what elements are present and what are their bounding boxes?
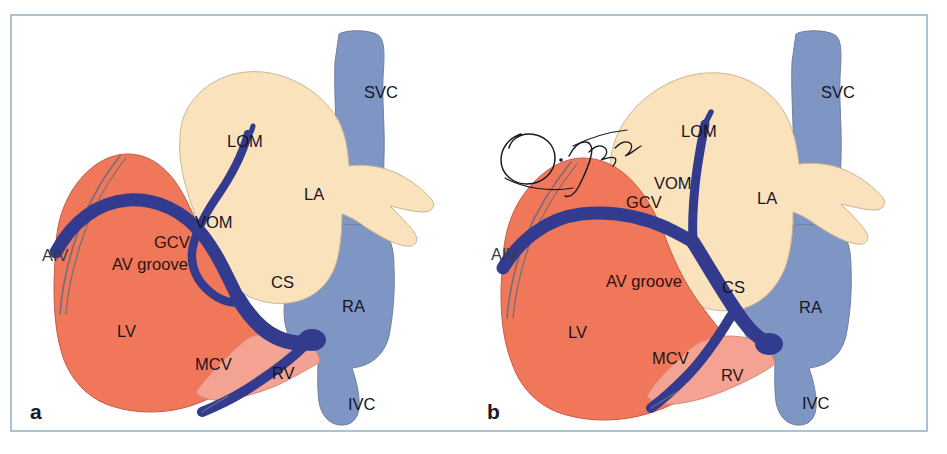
label-cs: CS bbox=[722, 278, 745, 296]
label-gcv: GCV bbox=[154, 233, 190, 251]
label-mcv: MCV bbox=[652, 349, 689, 367]
label-aiv: AIV bbox=[42, 246, 69, 264]
label-cs: CS bbox=[271, 273, 294, 291]
label-av-groove: AV groove bbox=[606, 272, 682, 290]
panel-b-illustration: SVC LOM VOM GCV LA AIV AV groove CS RA L… bbox=[469, 16, 926, 430]
label-ra: RA bbox=[799, 298, 822, 316]
label-gcv: GCV bbox=[626, 193, 662, 211]
label-mcv: MCV bbox=[195, 355, 232, 373]
panel-b-letter: b bbox=[487, 401, 500, 422]
label-lv: LV bbox=[117, 322, 136, 340]
label-lv: LV bbox=[568, 323, 587, 341]
figure-frame: SVC LOM LA VOM GCV AV groove AIV CS RA L… bbox=[10, 14, 928, 432]
label-la: LA bbox=[304, 185, 324, 203]
label-vom: VOM bbox=[654, 174, 692, 192]
label-ivc: IVC bbox=[348, 395, 376, 413]
label-la: LA bbox=[757, 189, 777, 207]
label-lom: LOM bbox=[681, 122, 717, 140]
label-ra: RA bbox=[342, 297, 365, 315]
label-svc: SVC bbox=[821, 83, 855, 101]
label-rv: RV bbox=[272, 364, 295, 382]
label-svc: SVC bbox=[364, 83, 398, 101]
panel-a-letter: a bbox=[30, 401, 42, 422]
panel-a-illustration: SVC LOM LA VOM GCV AV groove AIV CS RA L… bbox=[12, 16, 469, 430]
figure-root: SVC LOM LA VOM GCV AV groove AIV CS RA L… bbox=[0, 0, 947, 454]
label-lom: LOM bbox=[227, 132, 263, 150]
label-av-groove: AV groove bbox=[112, 255, 188, 273]
label-vom: VOM bbox=[195, 213, 233, 231]
label-aiv: AIV bbox=[491, 245, 518, 263]
label-rv: RV bbox=[721, 366, 744, 384]
label-ivc: IVC bbox=[802, 394, 830, 412]
panel-a: SVC LOM LA VOM GCV AV groove AIV CS RA L… bbox=[12, 16, 469, 430]
cs-ostium bbox=[755, 333, 783, 355]
panel-b: SVC LOM VOM GCV LA AIV AV groove CS RA L… bbox=[469, 16, 926, 430]
